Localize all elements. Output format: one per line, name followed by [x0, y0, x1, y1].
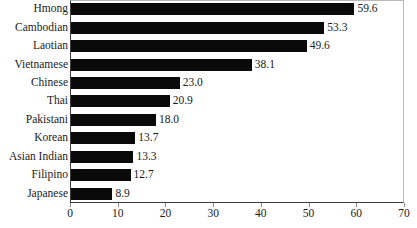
x-axis: 010203040506070 — [70, 203, 405, 228]
x-axis-tick-label: 10 — [112, 208, 124, 220]
bar — [71, 77, 180, 89]
bar — [71, 169, 131, 181]
x-axis-tick-label: 30 — [207, 208, 219, 220]
bar-chart: Hmong59.6Cambodian53.3Laotian49.6Vietnam… — [0, 0, 417, 228]
bar-value-label: 49.6 — [307, 40, 330, 52]
bar-value-label: 8.9 — [112, 188, 129, 200]
bar — [71, 188, 112, 200]
bar — [71, 132, 135, 144]
bar-value-label: 23.0 — [180, 77, 203, 89]
category-label: Japanese — [27, 188, 68, 200]
bar — [71, 114, 156, 126]
bar-row: Vietnamese38.1 — [0, 55, 417, 73]
bar-value-label: 38.1 — [252, 59, 275, 71]
category-label: Asian Indian — [9, 151, 68, 163]
bar-row: Filipino12.7 — [0, 166, 417, 184]
category-label: Filipino — [32, 170, 68, 182]
bar — [71, 95, 170, 107]
bar — [71, 151, 133, 163]
bar-value-label: 12.7 — [131, 170, 154, 182]
category-label: Laotian — [33, 40, 68, 52]
bar-row: Cambodian53.3 — [0, 18, 417, 36]
x-axis-tick-label: 20 — [160, 208, 172, 220]
category-label: Vietnamese — [14, 59, 68, 71]
bar — [71, 40, 307, 52]
bar-row: Chinese23.0 — [0, 74, 417, 92]
bar-row: Korean13.7 — [0, 129, 417, 147]
bar-value-label: 18.0 — [156, 114, 179, 126]
category-label: Cambodian — [15, 22, 68, 34]
x-axis-tick-label: 40 — [255, 208, 267, 220]
category-label: Thai — [47, 96, 68, 108]
x-axis-tick-label: 60 — [351, 208, 363, 220]
bar — [71, 22, 324, 34]
bar-value-label: 53.3 — [324, 22, 347, 34]
bar-row: Pakistani18.0 — [0, 111, 417, 129]
bar-value-label: 13.3 — [133, 151, 156, 163]
bar-row: Hmong59.6 — [0, 0, 417, 18]
bar-row: Thai20.9 — [0, 92, 417, 110]
x-axis-tick-label: 70 — [398, 208, 410, 220]
category-label: Chinese — [31, 77, 68, 89]
category-label: Korean — [34, 133, 68, 145]
bar — [71, 3, 354, 15]
category-label: Hmong — [34, 3, 69, 15]
bar-rows: Hmong59.6Cambodian53.3Laotian49.6Vietnam… — [0, 0, 417, 203]
bar-value-label: 59.6 — [354, 3, 377, 15]
bar-row: Laotian49.6 — [0, 37, 417, 55]
bar — [71, 59, 252, 71]
x-axis-tick-label: 50 — [303, 208, 315, 220]
bar-value-label: 13.7 — [135, 133, 158, 145]
bar-row: Asian Indian13.3 — [0, 148, 417, 166]
x-axis-tick-label: 0 — [67, 208, 73, 220]
category-label: Pakistani — [26, 114, 68, 126]
bar-value-label: 20.9 — [170, 96, 193, 108]
bar-row: Japanese8.9 — [0, 185, 417, 203]
